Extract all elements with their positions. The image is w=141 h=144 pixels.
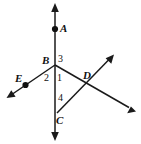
- point-label-B: B: [42, 55, 49, 66]
- arrowhead-bottom: [51, 132, 59, 141]
- arrowhead-lower-left: [7, 90, 16, 98]
- point-label-A: A: [60, 23, 67, 34]
- ray-c-to-d: [57, 60, 109, 114]
- point-dot-A: [52, 26, 58, 32]
- point-dot-E: [22, 82, 28, 88]
- angle-label-3: 3: [58, 54, 63, 64]
- arrowhead-top: [51, 3, 59, 12]
- ray-b-to-d: [55, 65, 129, 108]
- angle-label-2: 2: [44, 73, 49, 83]
- point-label-E: E: [15, 73, 22, 84]
- point-label-C: C: [56, 115, 63, 126]
- angle-label-1: 1: [57, 73, 62, 83]
- point-label-D: D: [83, 70, 91, 81]
- angle-label-4: 4: [58, 93, 63, 103]
- geometry-diagram: A B C D E 1 2 3 4: [0, 0, 141, 144]
